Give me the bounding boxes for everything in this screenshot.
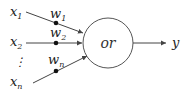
node-label: or xyxy=(100,35,116,51)
weight-n-label: wn xyxy=(48,52,64,69)
input-1: x1 w1 xyxy=(10,4,83,33)
input-2-label: x2 xyxy=(10,34,22,51)
weight-n-dot xyxy=(54,69,59,74)
output: y xyxy=(133,35,180,50)
input-1-label: x1 xyxy=(10,4,22,21)
weight-2-dot xyxy=(54,41,59,46)
ellipsis: ⋮ xyxy=(14,55,26,69)
perceptron-or-diagram: or x1 w1 x2 w2 ⋮ xn wn y xyxy=(0,0,190,101)
weight-2-label: w2 xyxy=(50,25,66,42)
input-n-label: xn xyxy=(10,74,23,91)
output-label: y xyxy=(171,35,180,50)
weight-1-label: w1 xyxy=(50,6,66,23)
